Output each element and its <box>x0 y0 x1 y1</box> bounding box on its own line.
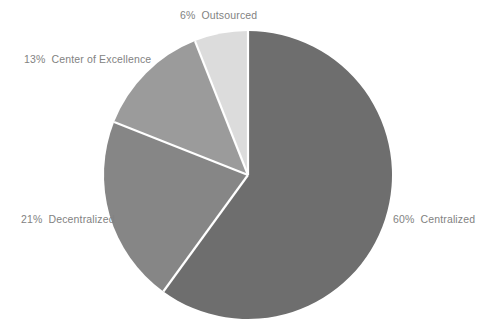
pie-label-decentralized-percent: 21% <box>21 213 42 226</box>
pie-slices-group <box>104 31 392 319</box>
pie-label-centralized: 60%Centralized <box>393 213 475 226</box>
pie-label-outsourced-name: Outsourced <box>201 9 257 22</box>
pie-label-centralized-percent: 60% <box>393 213 414 226</box>
pie-label-outsourced-percent: 6% <box>180 9 195 22</box>
pie-label-centralized-name: Centralized <box>420 213 475 226</box>
pie-chart: 60%Centralized 21%Decentralized 13%Cente… <box>0 0 492 329</box>
pie-label-decentralized: 21%Decentralized <box>21 213 115 226</box>
pie-label-outsourced: 6%Outsourced <box>180 9 257 22</box>
pie-label-center-of-excellence-name: Center of Excellence <box>51 53 151 66</box>
pie-label-center-of-excellence: 13%Center of Excellence <box>24 53 151 66</box>
pie-chart-svg <box>0 0 492 329</box>
pie-label-decentralized-name: Decentralized <box>48 213 114 226</box>
pie-label-center-of-excellence-percent: 13% <box>24 53 45 66</box>
